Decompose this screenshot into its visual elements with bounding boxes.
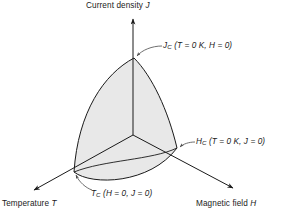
hc-annotation: HC (T = 0 K, J = 0) — [196, 138, 265, 147]
j-axis-symbol: J — [145, 1, 149, 10]
tc-subscript: C — [96, 191, 101, 198]
jc-leader-line — [137, 46, 162, 56]
critical-surface — [74, 58, 177, 180]
tc-annotation: TC (H = 0, J = 0) — [91, 190, 152, 199]
h-axis-label-text: Magnetic field — [196, 199, 250, 208]
j-axis-label-text: Current density — [86, 1, 145, 10]
j-axis-label: Current density J — [86, 2, 150, 11]
t-axis-symbol: T — [51, 199, 56, 208]
tc-conditions: (H = 0, J = 0) — [103, 189, 152, 198]
hc-subscript: C — [202, 139, 207, 146]
jc-subscript: C — [167, 43, 172, 50]
t-axis-label: Temperature T — [2, 200, 57, 209]
h-axis-label: Magnetic field H — [196, 200, 256, 209]
superconductivity-phase-diagram: Current density J Temperature T Magnetic… — [0, 0, 284, 216]
diagram-canvas — [0, 0, 284, 216]
critical-surface-fill — [74, 58, 177, 180]
jc-annotation: JC (T = 0 K, H = 0) — [163, 42, 232, 51]
t-axis-label-text: Temperature — [2, 199, 51, 208]
hc-leader-line — [180, 142, 195, 147]
hc-conditions: (T = 0 K, J = 0) — [209, 137, 265, 146]
h-axis-symbol: H — [250, 199, 256, 208]
jc-conditions: (T = 0 K, H = 0) — [174, 41, 232, 50]
